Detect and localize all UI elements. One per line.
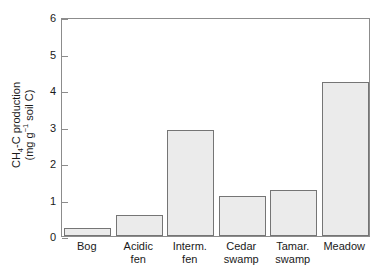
x-axis-tick-label-line: Acidic: [113, 240, 165, 253]
y-axis-tick: [62, 165, 68, 166]
x-axis-tick-label-line: Tamar.: [267, 240, 319, 253]
x-axis-tick-label: Meadow: [319, 240, 371, 253]
x-axis-tick-label: Bog: [61, 240, 113, 253]
y-axis-tick-label: 0: [4, 232, 56, 243]
x-axis-tick-label-line: swamp: [267, 253, 319, 266]
y-axis-tick-label: 2: [4, 159, 56, 170]
x-axis-tick-label: Acidicfen: [113, 240, 165, 266]
x-axis-tick-label-line: fen: [113, 253, 165, 266]
x-axis-tick-label-line: Bog: [61, 240, 113, 253]
y-axis-tick: [62, 56, 68, 57]
y-axis-tick-label: 3: [4, 122, 56, 133]
bar-chart-figure: CH4-C production (mg g−1 soil C) 0123456…: [0, 0, 383, 280]
bar: [167, 130, 214, 236]
bar: [322, 82, 369, 236]
x-axis-tick-label-line: Meadow: [319, 240, 371, 253]
y-axis-tick-label: 6: [4, 13, 56, 24]
y-axis-tick: [62, 202, 68, 203]
y-axis-tick: [62, 19, 68, 20]
x-axis-tick-label-line: Interm.: [164, 240, 216, 253]
x-axis-tick-label-line: swamp: [216, 253, 268, 266]
bar: [270, 190, 317, 236]
y-axis-tick: [62, 238, 68, 239]
x-axis-tick-label-line: Cedar: [216, 240, 268, 253]
x-axis-tick-label: Interm.fen: [164, 240, 216, 266]
y-axis-tick-label: 1: [4, 195, 56, 206]
bar: [116, 215, 163, 236]
x-axis-tick-label: Tamar.swamp: [267, 240, 319, 266]
bar: [219, 196, 266, 236]
y-axis-tick: [62, 129, 68, 130]
y-axis-tick: [62, 92, 68, 93]
y-axis-tick-label: 5: [4, 49, 56, 60]
x-axis-tick-label: Cedarswamp: [216, 240, 268, 266]
x-axis-tick-label-line: fen: [164, 253, 216, 266]
plot-area: [61, 18, 370, 237]
y-axis-tick-label: 4: [4, 86, 56, 97]
y-axis-title-subscript: 4: [16, 148, 25, 152]
bar: [64, 228, 111, 236]
y-axis-title-line2-pre: (mg g: [23, 132, 35, 160]
